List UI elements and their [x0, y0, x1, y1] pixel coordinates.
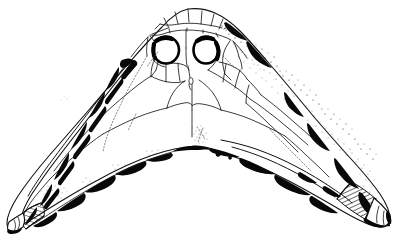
figure-root — [0, 0, 403, 239]
fossil-skull-illustration — [0, 0, 403, 239]
right-orbit — [194, 37, 219, 64]
pineal-foramen — [189, 78, 193, 85]
left-orbit — [153, 37, 179, 64]
